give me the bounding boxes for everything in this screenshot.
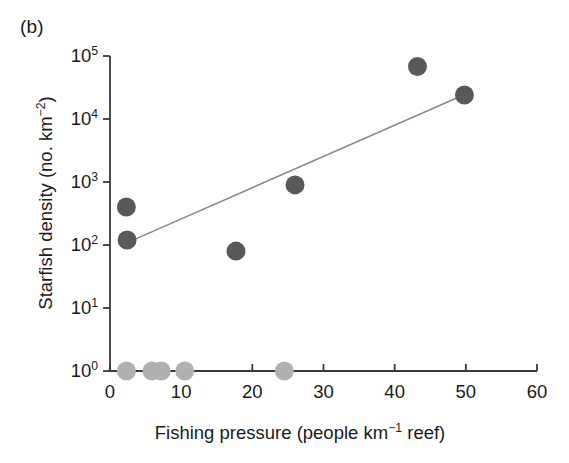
data-point [286, 175, 305, 194]
regression-line-group [128, 94, 466, 242]
data-point [175, 362, 194, 381]
data-point [226, 242, 245, 261]
data-point [118, 231, 137, 250]
data-point [455, 86, 474, 105]
data-point [275, 362, 294, 381]
data-point [152, 362, 171, 381]
axis-lines [103, 56, 537, 371]
data-point [117, 198, 136, 217]
plot-area [0, 0, 569, 463]
regression-line [128, 94, 466, 242]
data-point [117, 362, 136, 381]
figure-panel-b: (b) Starfish density (no. km−2) Fishing … [0, 0, 569, 463]
data-point [408, 57, 427, 76]
data-points-group [117, 57, 474, 380]
